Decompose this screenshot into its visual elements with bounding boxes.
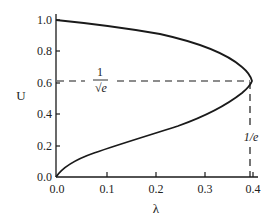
y-tick-label: 0.4 [37,107,52,121]
annotation-inv-e: 1/e [244,130,259,144]
svg-text:1: 1 [97,65,103,79]
x-tick-label: 0.2 [149,182,164,196]
y-axis-label: U [16,88,26,103]
x-tick-label: 0.1 [100,182,115,196]
y-tick-label: 0.6 [37,76,52,90]
x-tick-label: 0.4 [246,182,261,196]
x-axis-label: λ [153,201,160,216]
x-ticks [107,172,253,177]
x-tick-label: 0.3 [198,182,213,196]
chart-canvas: 0.0 0.2 0.4 0.6 0.8 1.0 0.0 0.1 0.2 0.3 … [0,0,274,221]
annotation-inv-sqrt-e: 1 √e [93,65,108,95]
y-tick-label: 1.0 [37,13,52,27]
y-tick-label: 0.2 [37,139,52,153]
curve-series [56,20,252,177]
x-tick-label: 0.0 [50,182,65,196]
y-tick-label: 0.8 [37,44,52,58]
svg-text:√e: √e [95,81,108,95]
